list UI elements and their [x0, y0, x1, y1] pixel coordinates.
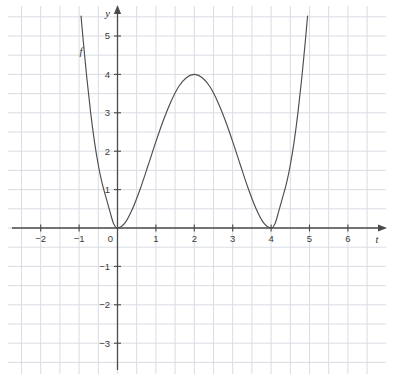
coordinate-plane: −2−10123456−3−2−112345 ytf: [0, 0, 394, 384]
plot-background: [0, 0, 394, 384]
x-tick-label: 3: [230, 233, 235, 244]
x-tick-label: 6: [345, 233, 350, 244]
y-tick-label: −1: [99, 261, 110, 272]
graph-figure: −2−10123456−3−2−112345 ytf: [0, 0, 394, 384]
y-tick-label: 1: [105, 184, 110, 195]
y-tick-label: −2: [99, 299, 110, 310]
y-axis-label: y: [104, 8, 110, 19]
y-tick-label: 4: [105, 69, 110, 80]
x-tick-label: −1: [74, 233, 85, 244]
y-tick-label: 2: [105, 146, 110, 157]
x-tick-label: 5: [307, 233, 312, 244]
y-tick-label: 3: [105, 107, 110, 118]
y-tick-label: 5: [105, 30, 110, 41]
x-tick-label: 2: [192, 233, 197, 244]
x-tick-label: 4: [268, 233, 273, 244]
x-tick-label: −2: [35, 233, 46, 244]
y-tick-label: −3: [99, 338, 110, 349]
x-tick-label: 1: [153, 233, 158, 244]
origin-label: 0: [108, 233, 113, 244]
